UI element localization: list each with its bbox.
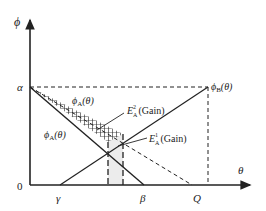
e2-leader-line xyxy=(97,113,124,130)
phi-a-lower-label: ϕA(θ) xyxy=(44,129,66,142)
e2-gain-label: E2A(Gain) xyxy=(126,104,165,118)
gamma-tick-label: γ xyxy=(56,192,61,204)
e1-gain-label: E1A(Gain) xyxy=(148,132,187,146)
x-axis-label: θ xyxy=(238,164,244,176)
q-tick-label: Q xyxy=(193,192,201,204)
phi-b-label: ϕB(θ) xyxy=(211,81,233,94)
origin-label: 0 xyxy=(17,180,23,192)
phi-a-upper-label: ϕA(θ) xyxy=(72,95,94,108)
alpha-tick-label: α xyxy=(17,81,23,93)
diagram-canvas: ϕ θ 0 α γ β Q ϕB(θ) ϕA(θ) ϕA(θ) E2A(Gain… xyxy=(0,0,266,211)
beta-tick-label: β xyxy=(139,192,146,204)
y-axis-label: ϕ xyxy=(14,15,20,29)
